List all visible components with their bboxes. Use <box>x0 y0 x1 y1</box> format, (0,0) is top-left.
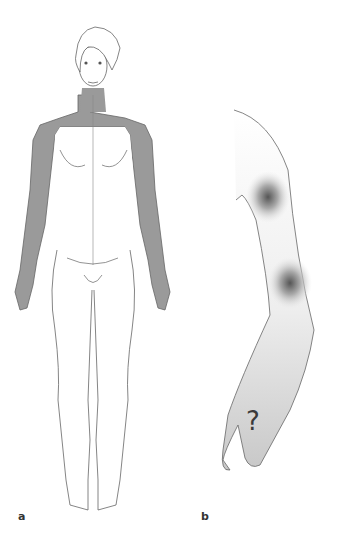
pain-spot-shoulder <box>246 171 290 223</box>
panel-label-a: a <box>18 510 25 523</box>
arm-illustration <box>190 0 338 540</box>
pain-spot-elbow <box>268 257 312 309</box>
question-mark-icon: ? <box>246 406 260 436</box>
body-figure-illustration <box>0 0 190 540</box>
panel-b-arm: ? b <box>190 0 338 540</box>
panel-label-b: b <box>201 510 209 523</box>
panel-a-full-body: a <box>0 0 190 540</box>
